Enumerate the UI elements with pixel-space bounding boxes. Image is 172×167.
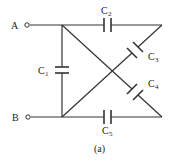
svg-text:C: C [38,65,45,76]
circuit-diagram: A B C 1 C 2 C 3 C 4 C 5 (a) [0,0,172,167]
svg-text:C: C [148,51,155,62]
diagonal-b-to-c3 [62,53,132,117]
diagonal-a-to-c4 [62,25,132,89]
svg-text:C: C [148,78,155,89]
terminal-a [25,23,29,27]
capacitor-c5 [104,110,111,124]
svg-text:1: 1 [45,70,49,78]
svg-text:4: 4 [155,83,159,91]
capacitor-c2 [104,18,111,32]
label-c2: C 2 [101,5,112,18]
figure-caption: (a) [94,143,105,155]
svg-text:3: 3 [155,56,159,64]
terminal-a-label: A [11,20,19,31]
terminal-b [26,115,30,119]
label-c1: C 1 [38,65,49,78]
diagonal-c3-to-right [138,25,162,47]
svg-text:C: C [102,125,109,136]
capacitor-c1 [55,67,69,73]
label-c4: C 4 [148,78,159,91]
svg-text:2: 2 [108,10,112,18]
svg-text:5: 5 [109,130,113,138]
terminal-b-label: B [12,112,19,123]
svg-text:C: C [101,5,108,16]
label-c3: C 3 [148,51,159,64]
diagonal-c4-to-right [138,95,162,117]
label-c5: C 5 [102,125,113,138]
